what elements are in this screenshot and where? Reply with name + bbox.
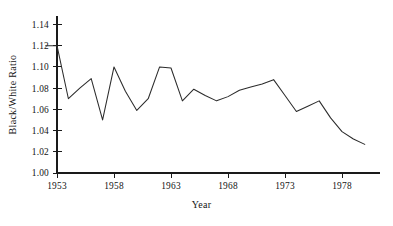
x-tick-label: 1963 — [161, 181, 181, 191]
y-tick-label: 1.00 — [32, 168, 49, 178]
y-tick-label: 1.10 — [32, 62, 49, 72]
y-tick-label: 1.06 — [32, 105, 49, 115]
y-tick-label: 1.14 — [32, 20, 49, 30]
x-tick-label: 1953 — [47, 181, 67, 191]
x-tick-label-group: 195319581963196819731978 — [47, 181, 352, 191]
y-tick-label: 1.04 — [32, 126, 49, 136]
y-tick-label: 1.08 — [32, 84, 49, 94]
x-tick-mark-group — [57, 173, 342, 178]
y-tick-label: 1.02 — [32, 147, 49, 157]
x-tick-label: 1958 — [104, 181, 124, 191]
data-series-line — [46, 46, 365, 145]
x-axis-title: Year — [192, 199, 212, 210]
x-tick-label: 1968 — [218, 181, 238, 191]
chart-figure: 1.001.021.041.061.081.101.121.14 1953195… — [0, 0, 393, 226]
line-chart-svg: 1.001.021.041.061.081.101.121.14 1953195… — [0, 0, 393, 226]
y-tick-label-group: 1.001.021.041.061.081.101.121.14 — [32, 20, 49, 179]
y-axis-title: Black/White Ratio — [7, 55, 18, 135]
x-tick-label: 1973 — [275, 181, 295, 191]
x-tick-label: 1978 — [332, 181, 352, 191]
